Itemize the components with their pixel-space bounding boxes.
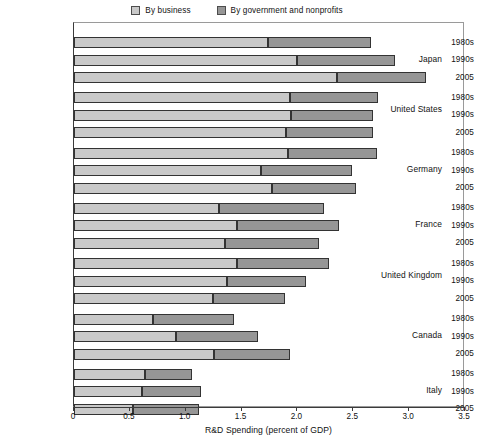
x-tick [185, 407, 186, 411]
bar-segment-government [213, 293, 286, 304]
bar-segment-government [145, 369, 192, 380]
x-tick [408, 407, 409, 411]
legend-item-business: By business [131, 6, 190, 15]
bar-row [74, 165, 352, 176]
country-label-united-states: United States [376, 104, 442, 114]
x-tick [464, 407, 465, 411]
bar-segment-business [74, 110, 291, 121]
bar-segment-business [74, 72, 337, 83]
x-tick-label: 1.0 [165, 412, 205, 421]
country-label-germany: Germany [376, 164, 442, 174]
period-label: 1980s [406, 203, 474, 212]
bar-segment-government [288, 148, 376, 159]
bar-row [74, 349, 290, 360]
bar-row [74, 314, 234, 325]
bar-segment-business [74, 276, 227, 287]
period-label: 2005 [406, 294, 474, 303]
x-tick-label: 3.0 [388, 412, 428, 421]
x-tick [352, 407, 353, 411]
bar-row [74, 386, 201, 397]
x-tick [129, 407, 130, 411]
legend-label-government: By government and nonprofits [231, 6, 343, 15]
country-label-canada: Canada [376, 330, 442, 340]
bar-segment-government [225, 238, 319, 249]
bar-row [74, 238, 319, 249]
bar-segment-government [286, 127, 373, 138]
period-label: 2005 [406, 73, 474, 82]
x-tick-label: 0.5 [109, 412, 149, 421]
bar-segment-government [176, 331, 259, 342]
x-tick [241, 407, 242, 411]
legend-label-business: By business [145, 6, 190, 15]
bar-segment-business [74, 314, 153, 325]
period-label: 1980s [406, 259, 474, 268]
bar-segment-government [261, 165, 353, 176]
period-label: 1980s [406, 38, 474, 47]
bar-segment-government [214, 349, 290, 360]
period-label: 2005 [406, 183, 474, 192]
bar-segment-government [272, 183, 356, 194]
bar-segment-government [290, 92, 378, 103]
country-label-france: France [376, 219, 442, 229]
legend-swatch-business [131, 6, 140, 15]
bar-row [74, 127, 373, 138]
x-axis-line [73, 407, 464, 408]
period-label: 1980s [406, 93, 474, 102]
bar-segment-business [74, 386, 142, 397]
legend-item-government: By government and nonprofits [217, 6, 343, 15]
chart-legend: By businessBy government and nonprofits [0, 2, 474, 18]
bar-segment-business [74, 331, 176, 342]
bar-row [74, 276, 306, 287]
x-tick-label: 0 [53, 412, 93, 421]
period-label: 2005 [406, 128, 474, 137]
country-label-italy: Italy [376, 385, 442, 395]
bar-segment-business [74, 258, 237, 269]
bar-row [74, 148, 377, 159]
country-label-japan: Japan [376, 54, 442, 64]
bar-row [74, 203, 324, 214]
bar-segment-business [74, 148, 288, 159]
bar-segment-business [74, 203, 219, 214]
bar-segment-government [237, 220, 339, 231]
bar-row [74, 293, 285, 304]
bar-row [74, 37, 371, 48]
period-label: 2005 [406, 238, 474, 247]
bar-segment-business [74, 165, 261, 176]
bar-segment-business [74, 238, 225, 249]
bar-segment-government [268, 37, 371, 48]
country-label-united-kingdom: United Kingdom [376, 270, 442, 280]
bar-row [74, 369, 192, 380]
bar-row [74, 220, 339, 231]
bar-segment-government [227, 276, 306, 287]
bar-segment-business [74, 369, 145, 380]
x-tick-label: 2.0 [276, 412, 316, 421]
bar-row [74, 55, 395, 66]
bar-segment-business [74, 220, 237, 231]
bar-segment-government [219, 203, 324, 214]
bar-segment-business [74, 92, 290, 103]
bar-row [74, 331, 258, 342]
bar-segment-business [74, 183, 272, 194]
bar-segment-business [74, 127, 286, 138]
bar-segment-government [237, 258, 329, 269]
bar-segment-government [153, 314, 233, 325]
bar-segment-business [74, 37, 268, 48]
x-tick-label: 3.5 [444, 412, 479, 421]
bar-row [74, 92, 378, 103]
period-label: 2005 [406, 349, 474, 358]
bar-segment-government [291, 110, 374, 121]
bar-segment-business [74, 349, 214, 360]
x-tick-label: 2.5 [332, 412, 372, 421]
bar-row [74, 183, 356, 194]
x-tick [296, 407, 297, 411]
x-tick-label: 1.5 [221, 412, 261, 421]
x-tick [73, 407, 74, 411]
bar-row [74, 258, 329, 269]
legend-swatch-government [217, 6, 226, 15]
period-label: 1980s [406, 148, 474, 157]
period-label: 1980s [406, 314, 474, 323]
bar-row [74, 72, 426, 83]
x-axis-title: R&D Spending (percent of GDP) [73, 425, 464, 435]
bar-segment-business [74, 293, 213, 304]
bar-segment-business [74, 55, 297, 66]
